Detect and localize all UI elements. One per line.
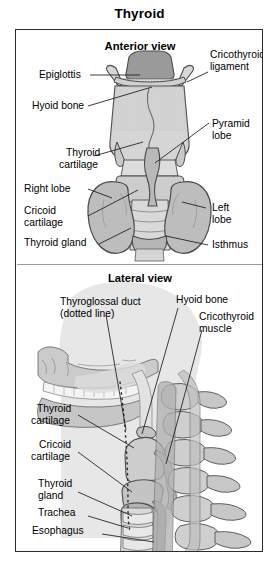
leader-hyoid-bone-lateral	[142, 308, 178, 434]
cricoid-cartilage-shape	[116, 176, 184, 202]
inferior-horn-left	[115, 142, 125, 167]
pyramid-lobe-shape	[145, 148, 160, 206]
label-esophagus: Esophagus	[32, 525, 84, 537]
thyroid-cartilage-lateral	[125, 437, 166, 482]
panel-divider	[17, 264, 263, 265]
upper-teeth	[43, 382, 141, 399]
facial-bone-detail	[42, 358, 136, 376]
maxilla-profile	[38, 347, 158, 388]
hyoid-bone-left-horn	[107, 65, 123, 85]
leader-pyramid-lobe	[155, 123, 209, 163]
leader-isthmus	[166, 236, 208, 245]
inferior-horn-right	[176, 142, 186, 167]
label-hyoid-bone-lateral: Hyoid bone	[176, 294, 228, 306]
tongue-soft-tissue	[74, 362, 146, 393]
leader-cricothyroid-ligament	[187, 72, 208, 82]
leader-cricoid-cartilage-lateral	[78, 452, 132, 492]
page-title: Thyroid	[0, 6, 279, 21]
anterior-leader-lines	[88, 72, 209, 245]
trachea-lateral	[120, 508, 156, 552]
leader-hyoid-bone	[88, 87, 152, 106]
head-soft-tissue-silhouette	[59, 282, 202, 538]
cricothyroid-ligament-shape	[121, 160, 178, 176]
spinous-processes	[198, 392, 251, 549]
epiglottis-shape	[126, 51, 174, 79]
thyroid-cartilage-shape	[110, 86, 189, 161]
leader-left-lobe	[182, 202, 206, 208]
cricoid-cartilage-lateral	[122, 480, 163, 509]
figure-page: Thyroid Anterior view Lateral view	[0, 0, 279, 567]
leader-cricoid-cartilage	[88, 190, 138, 216]
leader-thyroid-cartilage	[94, 142, 143, 156]
isthmus-shape	[132, 236, 166, 254]
thyrohyoid-membrane	[113, 79, 186, 130]
anterior-larynx-group	[88, 51, 211, 261]
thyroglossal-duct-dotted-line	[120, 382, 130, 532]
leader-thyroid-gland	[99, 228, 131, 244]
hyoid-bone-right-horn	[178, 65, 194, 85]
leader-thyroid-cartilage-lateral	[78, 415, 134, 448]
leader-right-lobe	[88, 189, 112, 198]
lateral-leader-lines	[78, 308, 202, 542]
label-epiglottis: Epiglottis	[39, 69, 81, 81]
thyroid-gland-left-lobe	[165, 182, 211, 254]
cricothyroid-muscle-shape	[154, 450, 177, 510]
trachea-anterior-shape	[130, 200, 170, 250]
leader-thyroid-gland-lateral	[78, 492, 132, 516]
hyoid-bone-body	[114, 77, 186, 88]
leader-thyroglossal-duct	[106, 315, 126, 430]
cervical-vertebrae	[161, 383, 220, 550]
laryngeal-prominence-seam	[147, 88, 154, 158]
label-hyoid-bone: Hyoid bone	[32, 100, 84, 112]
gland-shading	[102, 193, 196, 228]
esophagus-lateral	[150, 500, 166, 552]
prevertebral-muscle-band	[152, 382, 176, 552]
label-right-lobe: Right lobe	[24, 183, 70, 195]
label-thyroid-gland-anterior: Thyroid gland	[24, 237, 86, 249]
leader-trachea-lateral	[88, 516, 128, 528]
figure-plate: Anterior view Lateral view	[15, 29, 263, 552]
label-trachea: Trachea	[38, 507, 75, 519]
panel-heading-lateral: Lateral view	[16, 272, 263, 284]
trachea-lower-anterior	[135, 249, 164, 261]
leader-esophagus-lateral	[102, 534, 154, 542]
sternocleidomastoid-band	[178, 370, 200, 552]
thyroid-gland-right-lobe	[88, 182, 134, 254]
label-isthmus: Isthmus	[212, 239, 248, 251]
pharynx-airway	[130, 370, 152, 464]
hyoid-bone-lateral	[137, 426, 157, 438]
leader-cricothyroid-muscle	[166, 330, 202, 464]
thyroid-gland-lateral	[121, 503, 163, 552]
trachea-rings-anterior	[131, 210, 170, 242]
